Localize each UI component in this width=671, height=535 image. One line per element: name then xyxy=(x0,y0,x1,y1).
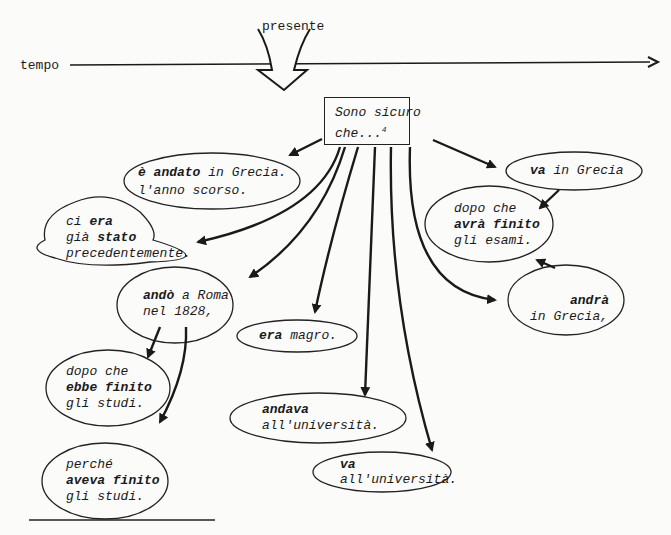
text: magro. xyxy=(282,328,337,343)
text: in Grecia. xyxy=(200,165,286,180)
verb: è andato xyxy=(138,165,200,180)
center-line2-text: che... xyxy=(335,126,382,141)
footnote-marker: 4 xyxy=(382,125,387,134)
bubble-ebbe-line3: gli studi. xyxy=(66,396,144,412)
bubble-andato xyxy=(124,153,300,209)
bubble-va-uni-line1: va xyxy=(340,457,356,473)
text: a Roma xyxy=(174,288,229,303)
bubble-avra-line1: dopo che xyxy=(454,201,516,217)
center-line2: che...4 xyxy=(335,122,387,142)
timeline-axis xyxy=(70,62,650,65)
center-box: Sono sicuro che...4 xyxy=(324,97,410,145)
text: in Grecia xyxy=(546,163,624,178)
bubble-aveva-line1: perché xyxy=(66,457,113,473)
timeline-axis-label: tempo xyxy=(20,58,59,74)
present-arrow-icon xyxy=(258,29,310,90)
diagram-lines xyxy=(0,0,671,535)
center-line1: Sono sicuro xyxy=(335,105,421,121)
bubble-andra-line1: andrà xyxy=(570,293,609,309)
bubble-aveva-line3: gli studi. xyxy=(66,489,144,505)
verb: va xyxy=(530,163,546,178)
text: già xyxy=(66,230,97,245)
verb: era xyxy=(89,214,112,229)
present-label: presente xyxy=(262,19,324,35)
verb: era xyxy=(259,328,282,343)
bubble-ebbe-line2: ebbe finito xyxy=(66,380,152,396)
verb: stato xyxy=(97,230,136,245)
bubble-ando-line2: nel 1828, xyxy=(143,304,213,320)
verb: andò xyxy=(143,288,174,303)
bubble-andava-line2: all'università. xyxy=(262,418,379,434)
bubble-andava-line1: andava xyxy=(262,402,309,418)
bubble-era-stato-line2: già stato xyxy=(66,230,136,246)
bubble-andato-line2: l'anno scorso. xyxy=(138,183,247,199)
bubble-aveva-line2: aveva finito xyxy=(66,473,160,489)
bubble-avra-line3: gli esami. xyxy=(454,233,532,249)
bubble-ebbe-line1: dopo che xyxy=(66,364,128,380)
bubble-era-magro-text: era magro. xyxy=(259,328,337,344)
bubble-ando-line1: andò a Roma xyxy=(143,288,229,304)
bubble-va-grecia-text: va in Grecia xyxy=(530,163,624,179)
bubble-avra-line2: avrà finito xyxy=(454,217,540,233)
text: ci xyxy=(66,214,89,229)
bubble-era-stato-line3: precedentemente. xyxy=(66,246,191,262)
bubble-andra-line2: in Grecia, xyxy=(530,309,608,325)
bubble-va-uni-line2: all'università. xyxy=(340,472,457,488)
bubble-era-stato-line1: ci era xyxy=(66,214,113,230)
bubble-andato-line1: è andato in Grecia. xyxy=(138,165,286,181)
